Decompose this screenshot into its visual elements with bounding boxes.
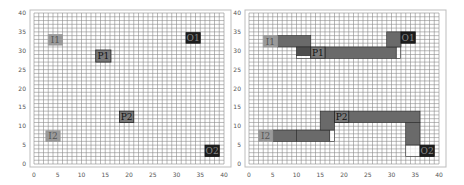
route-segment [387, 32, 401, 47]
route-segment [297, 47, 311, 56]
y-tick-label: 0 [22, 160, 26, 167]
route-segment [406, 145, 420, 156]
x-tick-label: 35 [411, 171, 419, 178]
x-tick-label: 15 [316, 171, 324, 178]
y-tick-label: 20 [18, 85, 26, 92]
block-label: I1 [51, 35, 60, 45]
y-tick-label: 25 [233, 66, 241, 73]
y-tick-label: 15 [233, 103, 241, 110]
block-o2: O2 [205, 145, 219, 156]
x-tick-label: 40 [220, 171, 228, 178]
block-o1: O1 [401, 32, 415, 43]
block-label: O1 [187, 33, 200, 43]
x-tick-label: 30 [173, 171, 181, 178]
x-tick-label: 35 [196, 171, 204, 178]
panel-initial-placement: I1P1O1P2I2O20510152025303540051015202530… [0, 0, 232, 185]
panel-routed-placement: I1P1O1P2I2O20510152025303540051015202530… [232, 0, 464, 185]
y-tick-label: 25 [18, 66, 26, 73]
x-tick-label: 10 [78, 171, 86, 178]
y-tick-label: 5 [22, 141, 26, 148]
y-tick-label: 15 [18, 103, 26, 110]
block-label: I2 [48, 131, 57, 141]
block-label: O2 [206, 146, 219, 156]
block-o1: O1 [186, 33, 200, 44]
route-segment [297, 56, 311, 59]
route-segment [273, 130, 297, 141]
block-label: P1 [97, 51, 109, 61]
y-tick-label: 20 [233, 85, 241, 92]
x-tick-label: 5 [56, 171, 60, 178]
block-p1: P1 [96, 50, 111, 62]
block-label: P2 [121, 112, 133, 122]
x-tick-label: 20 [125, 171, 133, 178]
x-tick-label: 25 [364, 171, 372, 178]
block-i2: I2 [259, 130, 273, 141]
block-label: O1 [402, 33, 415, 43]
block-i1: I1 [48, 35, 62, 46]
x-tick-label: 25 [149, 171, 157, 178]
y-tick-label: 30 [18, 47, 26, 54]
y-tick-label: 30 [233, 47, 241, 54]
block-label: O2 [421, 146, 434, 156]
y-tick-label: 35 [18, 28, 26, 35]
x-tick-label: 0 [32, 171, 36, 178]
x-tick-label: 5 [271, 171, 275, 178]
route-segment [396, 47, 400, 58]
block-o2: O2 [420, 145, 434, 156]
grid-plot-right: I1P1O1P2I2O20510152025303540051015202530… [232, 0, 464, 185]
x-tick-label: 30 [388, 171, 396, 178]
block-i2: I2 [46, 131, 60, 142]
x-tick-label: 0 [247, 171, 251, 178]
block-p1: P1 [311, 47, 325, 58]
route-segment [330, 130, 335, 141]
block-label: P2 [336, 112, 348, 122]
route-segment [320, 111, 334, 130]
y-tick-label: 40 [18, 9, 26, 16]
route-segment [349, 111, 420, 122]
route-segment [406, 122, 420, 145]
x-tick-label: 40 [435, 171, 443, 178]
route-segment [325, 47, 396, 58]
block-p2: P2 [120, 111, 134, 122]
y-tick-label: 35 [233, 28, 241, 35]
block-label: I1 [266, 37, 275, 47]
x-tick-label: 20 [340, 171, 348, 178]
grid-plot-left: I1P1O1P2I2O20510152025303540051015202530… [0, 0, 232, 185]
y-tick-label: 40 [233, 9, 241, 16]
y-tick-label: 10 [18, 122, 26, 129]
x-tick-label: 10 [293, 171, 301, 178]
x-tick-label: 15 [101, 171, 109, 178]
y-tick-label: 0 [237, 160, 241, 167]
block-p2: P2 [335, 111, 349, 122]
block-label: P1 [312, 48, 324, 58]
route-segment [297, 130, 330, 141]
y-tick-label: 10 [233, 122, 241, 129]
y-tick-label: 5 [237, 141, 241, 148]
block-i1: I1 [263, 36, 277, 47]
block-label: I2 [261, 131, 270, 141]
route-segment [278, 36, 311, 47]
